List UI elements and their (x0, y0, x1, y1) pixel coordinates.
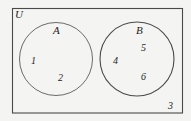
element-6-in-set-b: 6 (141, 72, 146, 82)
element-2-in-set-a: 2 (58, 73, 63, 83)
venn-diagram-figure: U A B 1 2 4 5 6 3 (0, 0, 191, 121)
element-3-outside-sets: 3 (168, 101, 173, 111)
set-a-label: A (53, 25, 60, 36)
element-5-in-set-b: 5 (141, 43, 146, 53)
set-b-label: B (136, 25, 143, 36)
element-1-in-set-a: 1 (31, 56, 36, 66)
universal-set-label: U (15, 9, 23, 20)
figure-background (0, 0, 191, 121)
venn-diagram-canvas (0, 0, 191, 121)
element-4-in-set-b: 4 (113, 56, 118, 66)
